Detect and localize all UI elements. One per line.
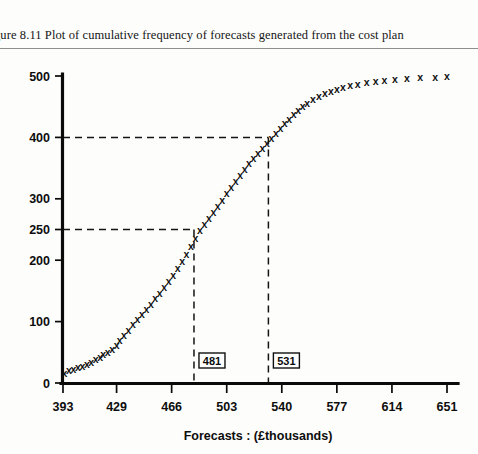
data-point-marker: x: [340, 81, 346, 93]
data-point-marker: x: [364, 76, 370, 88]
x-tick-label: 614: [382, 400, 403, 414]
data-point-marker: x: [444, 70, 450, 82]
x-tick-labels-layer: 393429466503540577614651: [53, 400, 458, 414]
data-points-layer: xxxxxxxxxxxxxxxxxxxxxxxxxxxxxxxxxxxxxxxx…: [62, 70, 451, 379]
data-point-marker: x: [347, 79, 353, 91]
y-tick-label: 250: [29, 223, 50, 237]
x-tick-label: 577: [326, 400, 347, 414]
annotation-label: 481: [203, 355, 221, 367]
data-point-marker: x: [355, 78, 361, 90]
x-tick-label: 429: [106, 400, 127, 414]
y-tick-label: 300: [29, 192, 50, 206]
y-tick-label: 0: [43, 377, 50, 391]
data-point-marker: x: [432, 71, 438, 83]
x-tick-label: 466: [161, 400, 182, 414]
y-tick-label: 500: [29, 70, 50, 84]
x-axis-title: Forecasts : (£thousands): [184, 429, 333, 443]
y-tick-label: 100: [29, 315, 50, 329]
cumulative-frequency-chart: 0100200250300400500 39342946650354057761…: [0, 0, 478, 454]
y-tick-label: 400: [29, 131, 50, 145]
figure-container: gure 8.11 Plot of cumulative frequency o…: [0, 0, 478, 454]
data-point-marker: x: [404, 72, 410, 84]
y-tick-labels-layer: 0100200250300400500: [29, 70, 50, 391]
data-point-marker: x: [417, 71, 423, 83]
annotation-label: 531: [277, 355, 295, 367]
x-tick-label: 393: [53, 400, 74, 414]
data-point-marker: x: [382, 74, 388, 86]
y-tick-label: 200: [29, 254, 50, 268]
x-tick-label: 540: [271, 400, 292, 414]
x-tick-label: 503: [216, 400, 237, 414]
data-point-marker: x: [392, 73, 398, 85]
x-tick-label: 651: [437, 400, 458, 414]
data-point-marker: x: [373, 75, 379, 87]
annotations-layer: 481531: [199, 353, 299, 368]
